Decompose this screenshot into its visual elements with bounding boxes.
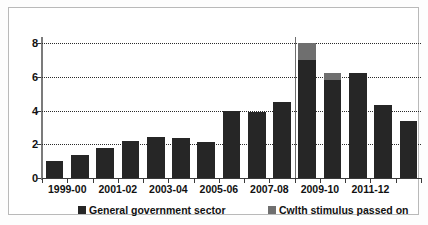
x-tick-label-1999-00: 1999-00: [48, 183, 87, 196]
bar-stack[interactable]: [96, 148, 114, 178]
legend-label-general-government-sector: General government sector: [89, 204, 226, 216]
bar-slot: [118, 43, 143, 178]
x-tick-label-2001-02: 2001-02: [99, 183, 138, 196]
bar-slot: [396, 43, 421, 178]
chart-figure: 02468 1999-002001-022003-042005-062007-0…: [0, 0, 428, 225]
bar-slot: [320, 43, 345, 178]
bar-segment-general-government: [298, 60, 316, 178]
y-tick-label-6: 6: [12, 71, 38, 82]
legend-label-cwlth-stimulus-passed-on: Cwlth stimulus passed on: [279, 204, 409, 216]
bar-stack[interactable]: [324, 73, 342, 178]
bar-segment-general-government: [122, 141, 140, 178]
bar-stack[interactable]: [298, 43, 316, 178]
x-tick-label-2007-08: 2007-08: [250, 183, 289, 196]
bar-segment-stimulus: [324, 73, 342, 80]
bar-series-group: [42, 43, 421, 178]
legend-item-general-government-sector: General government sector: [78, 204, 226, 216]
bar-segment-general-government: [223, 111, 241, 179]
bar-slot: [67, 43, 92, 178]
period-divider-line: [295, 37, 296, 180]
y-axis-labels: 02468: [9, 43, 38, 178]
y-tick-label-0: 0: [12, 173, 38, 184]
bar-segment-general-government: [324, 80, 342, 178]
y-tick-label-8: 8: [12, 38, 38, 49]
y-tick-label-2: 2: [12, 139, 38, 150]
bar-stack[interactable]: [197, 142, 215, 178]
bar-segment-general-government: [248, 112, 266, 178]
bar-segment-general-government: [147, 137, 165, 178]
bar-segment-general-government: [349, 73, 367, 178]
chart-legend: General government sector Cwlth stimulus…: [18, 202, 427, 218]
x-tick-label-2009-10: 2009-10: [301, 183, 340, 196]
bar-slot: [42, 43, 67, 178]
bar-stack[interactable]: [349, 73, 367, 178]
bar-stack[interactable]: [400, 121, 418, 178]
legend-swatch-general-government-sector: [78, 206, 86, 214]
bar-stack[interactable]: [172, 138, 190, 179]
bar-segment-general-government: [46, 161, 64, 178]
bar-stack[interactable]: [223, 111, 241, 179]
bar-stack[interactable]: [71, 155, 89, 178]
y-tick-label-4: 4: [12, 105, 38, 116]
bar-slot: [370, 43, 395, 178]
bar-segment-general-government: [197, 142, 215, 178]
bar-slot: [219, 43, 244, 178]
bar-stack[interactable]: [46, 161, 64, 178]
bar-slot: [345, 43, 370, 178]
bar-slot: [194, 43, 219, 178]
bar-segment-general-government: [400, 121, 418, 178]
bar-stack[interactable]: [374, 105, 392, 178]
bar-slot: [269, 43, 294, 178]
plot-area: [42, 43, 421, 178]
x-tick-label-2003-04: 2003-04: [149, 183, 188, 196]
chart-frame: 02468 1999-002001-022003-042005-062007-0…: [8, 7, 419, 215]
bar-segment-general-government: [96, 148, 114, 178]
legend-swatch-cwlth-stimulus-passed-on: [268, 206, 276, 214]
x-axis-labels: 1999-002001-022003-042005-062007-082009-…: [42, 183, 421, 197]
x-tick-mark: [421, 178, 422, 183]
bar-slot: [143, 43, 168, 178]
bar-segment-stimulus: [298, 43, 316, 60]
bar-segment-general-government: [374, 105, 392, 178]
bar-stack[interactable]: [122, 141, 140, 178]
bar-stack[interactable]: [147, 137, 165, 178]
bar-stack[interactable]: [273, 102, 291, 178]
bar-slot: [168, 43, 193, 178]
bar-slot: [93, 43, 118, 178]
bar-stack[interactable]: [248, 112, 266, 178]
bar-segment-general-government: [273, 102, 291, 178]
x-tick-label-2011-12: 2011-12: [351, 183, 389, 196]
bar-segment-general-government: [71, 155, 89, 178]
x-tick-label-2005-06: 2005-06: [200, 183, 239, 196]
legend-item-cwlth-stimulus-passed-on: Cwlth stimulus passed on: [268, 204, 409, 216]
bar-slot: [244, 43, 269, 178]
bar-segment-general-government: [172, 138, 190, 179]
bar-slot: [295, 43, 320, 178]
